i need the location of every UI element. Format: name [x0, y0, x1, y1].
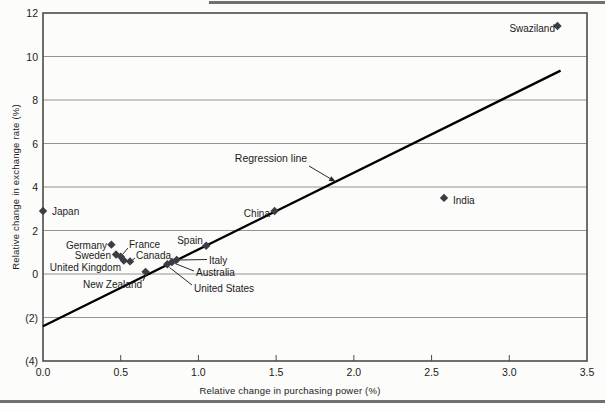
point-label-canada: Canada: [136, 250, 171, 261]
leader-line-united-states: [170, 268, 193, 286]
bottom-rule: [0, 400, 605, 403]
y-tick-label-2: 2: [32, 225, 38, 237]
y-tick-label-0: 0: [32, 268, 38, 280]
scatter-plot: JapanGermanySwedenFranceUnited KingdomCa…: [43, 13, 587, 361]
point-label-india: India: [453, 195, 475, 206]
x-tick-label-1.0: 1.0: [191, 366, 206, 378]
x-tick-label-2.0: 2.0: [347, 366, 362, 378]
x-tick-label-2.5: 2.5: [424, 366, 439, 378]
plot-area: JapanGermanySwedenFranceUnited KingdomCa…: [43, 13, 587, 361]
chart-figure: Relative change in exchange rate (%) Jap…: [0, 0, 605, 409]
point-label-china: China: [244, 208, 271, 219]
point-label-swaziland: Swaziland: [509, 23, 555, 34]
annotation-arrow-shaft: [309, 166, 330, 178]
point-label-australia: Australia: [196, 267, 235, 278]
top-rule: [209, 1, 605, 4]
point-label-united-states: United States: [194, 283, 254, 294]
y-tick-label-6: 6: [32, 138, 38, 150]
annotation-arrow-head: [329, 176, 336, 182]
point-label-united-kingdom: United Kingdom: [50, 262, 121, 273]
x-tick-label-3.0: 3.0: [502, 366, 517, 378]
data-point-japan: [39, 207, 47, 215]
y-tick-label-(2): (2): [25, 312, 38, 324]
y-tick-label-12: 12: [26, 7, 38, 19]
y-axis-title: Relative change in exchange rate (%): [10, 104, 21, 270]
point-label-japan: Japan: [52, 206, 79, 217]
leader-line-australia: [175, 264, 194, 272]
regression-line-label: Regression line: [235, 152, 308, 164]
leader-line-france: [123, 248, 129, 255]
x-axis-title: Relative change in purchasing power (%): [199, 385, 380, 396]
point-label-france: France: [129, 239, 161, 250]
point-label-sweden: Sweden: [75, 250, 111, 261]
x-tick-label-1.5: 1.5: [269, 366, 284, 378]
data-point-canada: [126, 257, 134, 265]
point-label-spain: Spain: [177, 235, 203, 246]
data-point-germany: [107, 240, 115, 248]
data-point-india: [440, 194, 448, 202]
data-point-spain: [202, 242, 210, 250]
y-tick-label-10: 10: [26, 51, 38, 63]
x-tick-label-3.5: 3.5: [580, 366, 595, 378]
y-tick-label-8: 8: [32, 94, 38, 106]
x-tick-label-0.0: 0.0: [36, 366, 51, 378]
y-tick-label-4: 4: [32, 181, 38, 193]
point-label-italy: Italy: [209, 255, 227, 266]
x-tick-label-0.5: 0.5: [113, 366, 128, 378]
leader-line-italy: [181, 260, 208, 261]
point-label-new-zealand: New Zealand: [83, 279, 142, 290]
